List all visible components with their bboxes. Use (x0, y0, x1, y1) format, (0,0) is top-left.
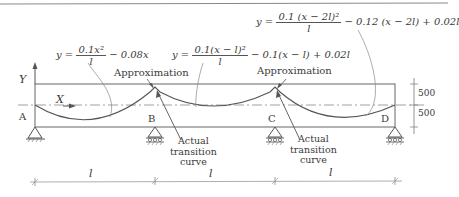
equation-lhs: y = (256, 16, 273, 27)
actual-transition-label-left: Actual transition curve (170, 136, 217, 168)
equation-rest: − 0.12 (x − 2l) + 0.02l (344, 16, 459, 27)
support-a-icon (26, 127, 45, 142)
equation-span-3: y = 0.1 (x − 2l)² l − 0.12 (x − 2l) + 0.… (256, 11, 459, 34)
equation-denominator: l (76, 56, 106, 67)
x-axis-label: X (56, 93, 64, 106)
y-axis-label: Y (19, 73, 26, 86)
equation-fraction: 0.1 (x − 2l)² l (276, 11, 341, 34)
support-label-a: A (19, 111, 26, 122)
depth-dimension (410, 78, 418, 134)
tendon-profile (35, 87, 395, 120)
approximation-label-right: Approximation (257, 65, 332, 76)
equation-numerator: 0.1x² (76, 44, 106, 56)
depth-upper-label: 500 (418, 88, 435, 98)
depth-lower-label: 500 (418, 108, 435, 118)
span-dimension (30, 177, 402, 186)
equation-denominator: l (192, 56, 247, 67)
label-line: curve (170, 157, 217, 168)
actual-arrow-right (278, 93, 300, 140)
leader-eq3 (358, 30, 376, 116)
x-axis-arrow-icon (69, 104, 76, 109)
equation-fraction: 0.1x² l (76, 44, 106, 67)
equation-span-1: y = 0.1x² l − 0.08x (56, 44, 149, 67)
equation-lhs: y = (56, 49, 73, 60)
span-label-1: l (89, 167, 93, 180)
equation-fraction: 0.1(x − l)² l (192, 44, 247, 67)
actual-transition-label-right: Actual transition curve (290, 134, 337, 166)
label-line: Actual (170, 136, 217, 147)
equation-rest: − 0.1(x − l) + 0.02l (251, 49, 350, 60)
y-axis-arrow-icon (33, 62, 38, 69)
equation-rest: − 0.08x (109, 49, 148, 60)
span-label-2: l (209, 167, 213, 180)
equation-span-2: y = 0.1(x − l)² l − 0.1(x − l) + 0.02l (172, 44, 350, 67)
label-line: Actual (290, 134, 337, 145)
span-label-3: l (329, 166, 333, 179)
equation-denominator: l (276, 23, 341, 34)
leader-eq2 (196, 63, 203, 107)
support-label-b: B (148, 113, 155, 124)
support-b-icon (146, 127, 164, 145)
top-rule (0, 3, 448, 4)
support-d-icon (386, 127, 404, 145)
leader-eq1 (88, 63, 112, 117)
equation-numerator: 0.1(x − l)² (192, 44, 247, 56)
support-label-d: D (381, 113, 389, 124)
approximation-label-left: Approximation (114, 67, 189, 78)
support-c-icon (266, 127, 284, 145)
support-label-c: C (268, 113, 276, 124)
label-line: curve (290, 155, 337, 166)
equation-lhs: y = (172, 49, 189, 60)
equation-numerator: 0.1 (x − 2l)² (276, 11, 341, 23)
